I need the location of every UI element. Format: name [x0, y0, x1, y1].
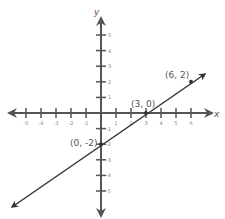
svg-text:2: 2 — [108, 79, 111, 85]
svg-text:6: 6 — [189, 120, 192, 126]
point-3-0 — [144, 111, 148, 115]
svg-text:3: 3 — [144, 120, 147, 126]
svg-text:-1: -1 — [106, 126, 111, 132]
svg-text:-5: -5 — [24, 120, 29, 126]
svg-text:5: 5 — [108, 32, 111, 38]
svg-text:-2: -2 — [69, 120, 74, 126]
point-0-neg2 — [99, 142, 103, 146]
svg-text:-4: -4 — [106, 172, 111, 178]
point-6-2 — [189, 80, 193, 84]
svg-text:1: 1 — [114, 120, 117, 126]
x-axis-label: x — [213, 109, 220, 119]
svg-text:4: 4 — [108, 48, 111, 54]
svg-text:-5: -5 — [106, 188, 111, 194]
svg-text:-3: -3 — [54, 120, 59, 126]
svg-text:4: 4 — [159, 120, 162, 126]
point-label-6-2: (6, 2) — [165, 70, 189, 80]
svg-text:-3: -3 — [106, 157, 111, 163]
point-label-0-neg2: (0, -2) — [70, 138, 97, 148]
svg-text:5: 5 — [174, 120, 177, 126]
svg-text:-1: -1 — [84, 120, 89, 126]
point-label-3-0: (3, 0) — [131, 99, 155, 109]
svg-text:3: 3 — [108, 63, 111, 69]
svg-text:-4: -4 — [39, 120, 44, 126]
coordinate-graph: -5 -4 -3 -2 -1 1 2 3 4 5 6 5 4 3 2 1 -1 … — [0, 0, 225, 219]
svg-text:1: 1 — [108, 94, 111, 100]
y-axis-label: y — [93, 7, 100, 17]
